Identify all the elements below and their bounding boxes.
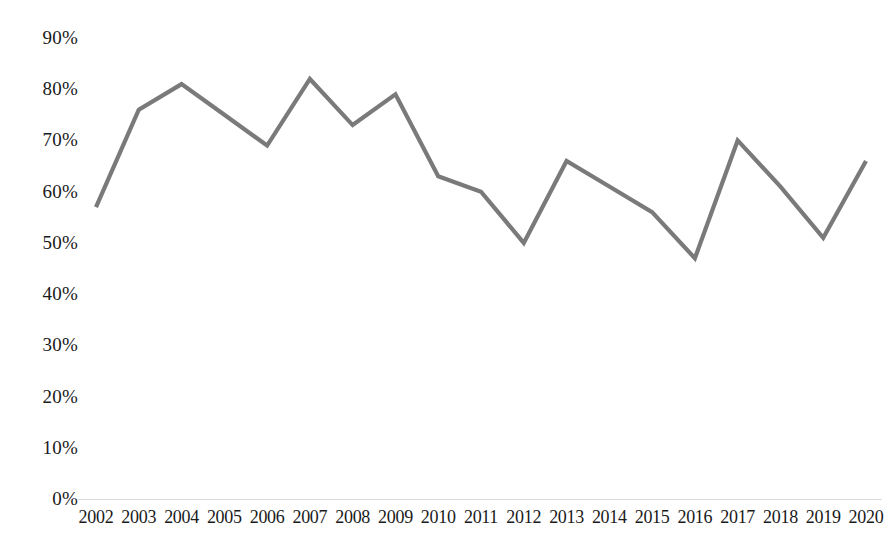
x-axis: 2002200320042005200620072008200920102011… [0, 0, 886, 545]
x-tick-label: 2012 [506, 508, 541, 526]
x-tick-label: 2004 [164, 508, 199, 526]
x-tick-label: 2002 [79, 508, 114, 526]
x-tick-label: 2003 [121, 508, 156, 526]
x-tick-label: 2019 [806, 508, 841, 526]
x-tick-label: 2010 [421, 508, 456, 526]
x-tick-label: 2013 [549, 508, 584, 526]
x-tick-label: 2020 [849, 508, 884, 526]
x-tick-label: 2006 [250, 508, 285, 526]
x-tick-label: 2017 [720, 508, 755, 526]
x-tick-label: 2014 [592, 508, 627, 526]
x-tick-label: 2007 [292, 508, 327, 526]
line-chart: 90%80%70%60%50%40%30%20%10%0% 2002200320… [0, 0, 886, 545]
x-tick-label: 2016 [677, 508, 712, 526]
x-tick-label: 2018 [763, 508, 798, 526]
x-tick-label: 2008 [335, 508, 370, 526]
x-tick-label: 2011 [464, 508, 498, 526]
x-tick-label: 2009 [378, 508, 413, 526]
x-tick-label: 2005 [207, 508, 242, 526]
x-tick-label: 2015 [635, 508, 670, 526]
